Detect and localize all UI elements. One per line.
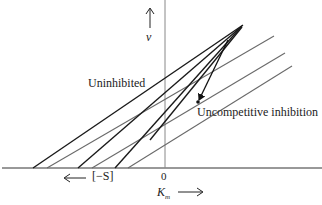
uninhibited-label: Uninhibited [88, 76, 145, 91]
up-arrow-icon [146, 8, 154, 28]
right-arrow-icon [178, 188, 203, 196]
y-axis-label: v [146, 30, 151, 45]
km-symbol: K [157, 185, 165, 199]
km-subscript: m [165, 193, 170, 201]
uncompetitive-point [196, 100, 200, 104]
left-arrow-icon [64, 174, 86, 182]
inhibited-lines [47, 36, 292, 168]
uncompetitive-inhibition-label: Uncompetitive inhibition [197, 105, 318, 120]
neg-s-label: [−S] [92, 169, 113, 184]
origin-label: 0 [161, 170, 167, 182]
x-axis-label: Km [157, 185, 170, 201]
